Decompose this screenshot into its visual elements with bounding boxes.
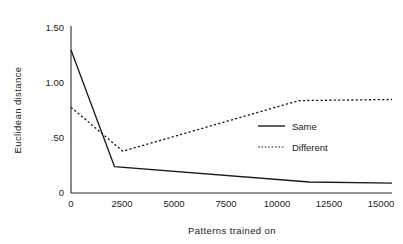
- y-tick-label: 1.50: [46, 22, 65, 33]
- y-tick-label: .50: [51, 132, 64, 143]
- y-tick-label: 1.00: [46, 77, 65, 88]
- y-axis-title: Euclidean distance: [12, 67, 23, 154]
- line-chart: 1.50 1.00 .50 0 0 2500 5000 7500 10000 1…: [0, 0, 403, 244]
- legend-label-same: Same: [292, 121, 317, 132]
- series-line-different: [71, 100, 392, 152]
- chart-legend: Same Different: [258, 121, 328, 153]
- x-tick-label: 10000: [264, 198, 290, 209]
- y-tick-label: 0: [59, 187, 64, 198]
- chart-figure: 1.50 1.00 .50 0 0 2500 5000 7500 10000 1…: [0, 0, 403, 244]
- x-tick-label: 2500: [111, 198, 132, 209]
- series-line-same: [71, 50, 392, 183]
- x-tick-label: 0: [68, 198, 73, 209]
- x-axis-title: Patterns trained on: [188, 225, 276, 236]
- legend-label-different: Different: [292, 142, 328, 153]
- x-tick-label: 15000: [368, 198, 394, 209]
- x-tick-label: 7500: [215, 198, 236, 209]
- x-tick-label: 5000: [163, 198, 184, 209]
- x-tick-label: 12500: [316, 198, 342, 209]
